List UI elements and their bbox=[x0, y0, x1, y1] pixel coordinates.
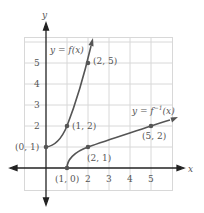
y-axis-label: y bbox=[41, 10, 48, 20]
label-point-2-1: (2, 1) bbox=[87, 153, 111, 163]
y-axis-down-arrow-icon bbox=[44, 198, 49, 205]
point-1-2 bbox=[65, 124, 70, 129]
label-point-5-2: (5, 2) bbox=[142, 131, 166, 141]
finv-curve-arrow-icon bbox=[171, 117, 179, 123]
tick-y-4: 4 bbox=[34, 79, 40, 89]
label-point-1-0: (1, 0) bbox=[55, 174, 79, 184]
tick-y-2: 2 bbox=[34, 121, 40, 131]
x-axis-left-arrow-icon bbox=[10, 166, 17, 171]
x-axis-label: x bbox=[188, 164, 193, 174]
tick-x-2: 2 bbox=[85, 174, 91, 184]
axes bbox=[10, 23, 184, 205]
point-1-0 bbox=[65, 166, 70, 171]
point-2-5 bbox=[86, 61, 91, 66]
tick-y-3: 3 bbox=[34, 100, 40, 110]
y-axis-up-arrow-icon bbox=[44, 23, 49, 30]
label-point-2-5: (2, 5) bbox=[93, 56, 117, 66]
f-curve-label: y = f(x) bbox=[49, 45, 84, 55]
tick-x-3: 3 bbox=[106, 174, 112, 184]
tick-x-4: 4 bbox=[127, 174, 133, 184]
point-5-2 bbox=[149, 124, 154, 129]
function-inverse-chart: y x 2 3 4 5 2 3 4 5 y = f(x) y = f−1(x) … bbox=[0, 0, 204, 213]
finv-curve-label: y = f−1(x) bbox=[131, 104, 175, 116]
point-2-1 bbox=[86, 145, 91, 150]
tick-x-5: 5 bbox=[148, 174, 154, 184]
tick-y-5: 5 bbox=[34, 58, 40, 68]
label-point-0-1: (0, 1) bbox=[15, 142, 39, 152]
point-0-1 bbox=[44, 145, 49, 150]
label-point-1-2: (1, 2) bbox=[72, 121, 96, 131]
x-axis-right-arrow-icon bbox=[177, 166, 184, 171]
